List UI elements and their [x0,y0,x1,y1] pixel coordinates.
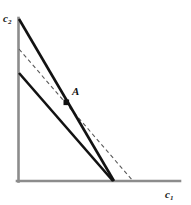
point-a-label: A [72,86,79,97]
x-axis-label-subscript: 1 [170,194,174,202]
y-axis-label: c2 [3,13,11,24]
flat-budget-line [19,73,113,181]
x-axis-label: c1 [165,189,173,200]
plot-canvas [0,0,191,205]
point-a-marker [64,100,70,106]
point-a-marker-group [64,100,70,106]
figure-container: c2 c1 A [0,0,191,205]
y-axis-label-subscript: 2 [8,18,12,26]
